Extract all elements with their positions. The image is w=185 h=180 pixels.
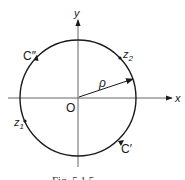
- radius-arrow: [79, 79, 133, 97]
- x-axis-label: x: [174, 92, 181, 104]
- radius-label: ρ: [98, 76, 106, 90]
- c-prime-label: C′: [121, 142, 133, 156]
- origin-label: O: [66, 101, 75, 115]
- contour-diagram: y x O ρ z2 z1 C″ C′ Fig. 5.1.5: [0, 0, 185, 180]
- figure-caption: Fig. 5.1.5: [52, 174, 95, 180]
- z1-label: z1: [13, 116, 24, 131]
- c-double-prime-label: C″: [23, 49, 37, 63]
- z2-label: z2: [122, 48, 134, 63]
- y-axis-label: y: [73, 7, 81, 19]
- point-z2: [118, 56, 121, 59]
